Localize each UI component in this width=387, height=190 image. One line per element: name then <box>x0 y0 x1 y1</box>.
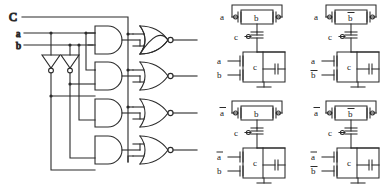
cmos-cell-bottom-left: a b c a b c <box>217 101 286 183</box>
net-C-nor4 <box>128 156 133 162</box>
nmos-a-label: a <box>311 56 315 66</box>
nmos-a-label: a <box>217 56 221 66</box>
junction-a-inv <box>49 31 52 34</box>
inverter-b <box>61 55 79 68</box>
cmos-grid-svg: a b c a b c a b c a b c <box>213 0 387 190</box>
nmos-a-label: a <box>217 152 221 162</box>
and-gate-3 <box>95 99 140 127</box>
net-a-bar-h2 <box>51 96 95 170</box>
tap-a-and2 <box>86 33 95 70</box>
nmos-c-label: c <box>347 158 351 168</box>
nmos-c-label: c <box>347 62 351 72</box>
net-b-bar-h2 <box>70 84 95 158</box>
cmos-cell-grid: a b c a b c a b c a b c <box>213 0 387 190</box>
nor-gate-1 <box>133 26 197 54</box>
nmos-c-label: c <box>253 158 257 168</box>
and-gate-2 <box>95 62 140 90</box>
cmos-cell-top-right: a b c a b c <box>311 5 380 87</box>
junction-b-inv <box>68 43 71 46</box>
tap-b-and3 <box>79 45 95 120</box>
nmos-b-label: b <box>311 166 316 176</box>
input-label-b: b <box>16 40 21 51</box>
nmos-a-label: a <box>311 152 315 162</box>
nmos-b-label: b <box>217 70 222 80</box>
junction-bbar <box>68 82 71 85</box>
nor-gate-3 <box>133 99 197 127</box>
nmos-b-label: b <box>311 70 316 80</box>
pmos-b-label: b <box>254 109 259 119</box>
cmos-cells: a b c a b c a b c a b c <box>217 5 380 183</box>
nmos-b-label: b <box>217 166 222 176</box>
pmos-b-label: b <box>254 13 259 23</box>
pmos-a-label: a <box>220 12 224 22</box>
cmos-cell-bottom-right: a b c a b c <box>311 101 380 183</box>
and-gate-4 <box>95 136 140 164</box>
pmos-a-label: a <box>314 12 318 22</box>
pmos-b-label: b <box>348 13 353 23</box>
nor-gate-2 <box>133 62 197 90</box>
inverter-a <box>42 55 60 68</box>
junction-abar <box>49 94 52 97</box>
input-label-a: a <box>16 28 21 39</box>
pmos-a-label: a <box>314 108 318 118</box>
pmos-a-label: a <box>220 108 224 118</box>
pmos-c-label: c <box>328 32 332 42</box>
pmos-c-label: c <box>234 128 238 138</box>
gate-schematic-svg: C a b <box>0 0 200 190</box>
junction-b-and3 <box>77 43 80 46</box>
nmos-c-label: c <box>253 62 257 72</box>
cmos-cell-top-left: a b c a b c <box>217 5 285 87</box>
pmos-c-label: c <box>234 32 238 42</box>
junction-a-and2 <box>84 31 87 34</box>
gate-schematic: C a b <box>0 0 200 190</box>
nor-gate-4 <box>133 136 197 164</box>
pmos-c-label: c <box>328 128 332 138</box>
and-gate-1 <box>88 26 140 54</box>
input-label-C: C <box>9 10 17 24</box>
figure-root: C a b <box>0 0 387 190</box>
pmos-b-label: b <box>348 109 353 119</box>
